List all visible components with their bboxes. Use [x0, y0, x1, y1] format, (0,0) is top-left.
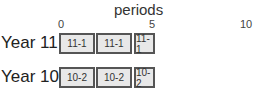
period-block: 10-2: [96, 67, 132, 88]
row-label-year-10: Year 10: [1, 67, 59, 87]
tick-5: 5: [149, 18, 155, 30]
period-block: 10-2: [134, 67, 155, 88]
axis-title: periods: [114, 1, 163, 18]
period-block: 11-1: [96, 33, 132, 54]
period-block: 10-2: [59, 67, 95, 88]
period-block: 11-1: [134, 33, 155, 54]
tick-10: 10: [240, 18, 252, 30]
period-block: 11-1: [59, 33, 95, 54]
tick-0: 0: [58, 18, 64, 30]
row-label-year-11: Year 11: [1, 33, 58, 53]
